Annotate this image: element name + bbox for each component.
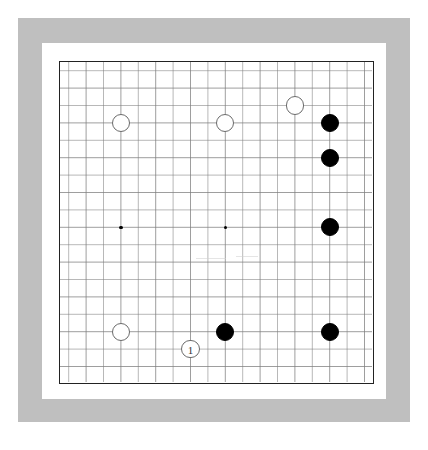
stone-black[interactable]	[321, 149, 339, 167]
hoshi-point	[224, 226, 227, 229]
stone-white[interactable]	[112, 114, 130, 132]
stone-white[interactable]	[286, 96, 304, 114]
stone-black[interactable]	[321, 323, 339, 341]
stone-white[interactable]	[112, 323, 130, 341]
hoshi-point	[119, 226, 122, 229]
scan-artifact-2	[236, 256, 258, 257]
diagram-page: 1	[0, 0, 428, 450]
stone-move-number: 1	[182, 345, 198, 356]
scan-artifact-1	[196, 258, 226, 259]
stone-black[interactable]	[321, 114, 339, 132]
go-board[interactable]: 1	[59, 61, 374, 384]
stone-white[interactable]: 1	[181, 340, 199, 358]
